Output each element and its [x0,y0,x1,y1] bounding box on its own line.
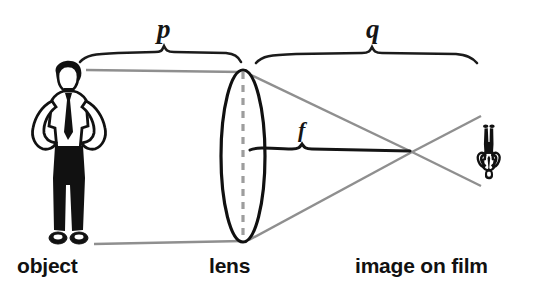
ray-object-top [86,70,243,72]
ray-bundle [86,70,481,244]
object-person-figure [32,61,105,244]
lens-caption: lens [209,255,250,276]
lens-element [221,70,265,242]
diagram-canvas [0,0,534,294]
person-trousers [53,146,85,231]
ray-refracted-lower-continued [412,116,481,152]
ray-refracted-lower [249,152,412,240]
ray-refracted-upper-continued [412,152,481,186]
brace-p [80,46,241,62]
lens-diagram: p q f object lens image on film [0,0,534,294]
person-shoe-right-highlight [75,235,84,240]
image-person-figure [478,124,500,179]
focal-length-label: f [298,119,305,141]
person-head [58,66,78,91]
brace-q [256,47,477,63]
ray-object-bottom [94,241,243,244]
image-person-trousers [484,128,494,154]
object-caption: object [17,255,78,276]
brace-f [250,144,410,151]
image-caption: image on film [355,255,488,276]
ray-refracted-upper [249,74,412,152]
image-person-shoe-left [489,124,494,128]
person-shoe-left-highlight [54,235,63,240]
image-distance-label: q [366,16,380,43]
image-person-shoe-right [483,124,488,128]
object-distance-label: p [157,16,171,43]
